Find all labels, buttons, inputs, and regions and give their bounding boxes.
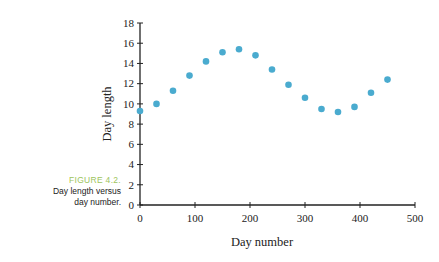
data-point [203,58,210,65]
data-point [335,109,342,116]
y-tick-label: 10 [123,98,135,110]
data-point [252,52,259,59]
x-tick-label: 500 [407,212,424,224]
data-point [186,72,193,79]
data-point [351,104,358,111]
x-tick-label: 100 [187,212,204,224]
y-tick-label: 12 [123,77,134,89]
data-point [302,95,309,102]
axes: 0246810121416180100200300400500 [123,17,424,224]
y-tick-label: 4 [129,158,135,170]
x-tick-label: 0 [137,212,143,224]
y-tick-label: 14 [123,57,135,69]
data-point [153,101,160,108]
data-point [285,81,292,88]
y-tick-label: 18 [123,17,135,29]
data-point [269,66,276,73]
data-point [236,46,243,53]
scatter-chart: 0246810121416180100200300400500 Day numb… [0,0,439,262]
x-axis-label: Day number [231,235,294,249]
x-tick-label: 400 [352,212,369,224]
x-tick-label: 300 [297,212,314,224]
data-point [384,76,391,83]
data-point [170,87,177,94]
y-tick-label: 6 [129,138,135,150]
data-points [137,46,391,115]
data-point [368,89,375,96]
y-axis-label: Day length [100,86,114,142]
data-point [219,49,226,56]
x-tick-label: 200 [242,212,259,224]
y-tick-label: 16 [123,37,135,49]
data-point [318,106,325,113]
y-tick-label: 2 [129,179,135,191]
y-tick-label: 8 [129,118,135,130]
y-tick-label: 0 [129,199,135,211]
data-point [137,108,144,115]
